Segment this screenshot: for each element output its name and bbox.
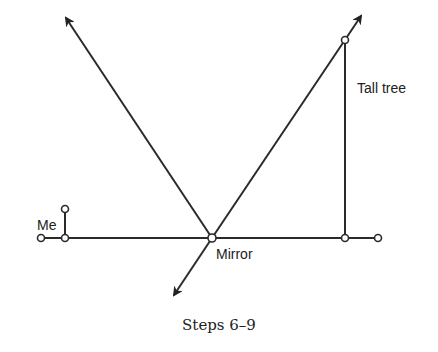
me-base-point	[62, 235, 69, 242]
me-label: Me	[37, 217, 57, 233]
tree-label: Tall tree	[357, 80, 406, 96]
right-end-point	[375, 235, 382, 242]
mirror-label: Mirror	[216, 246, 253, 262]
me-eye-point	[62, 206, 69, 213]
ray-upper-left	[66, 18, 212, 238]
tree-base-point	[342, 235, 349, 242]
ray-upper-right	[212, 16, 361, 238]
left-end-point	[38, 235, 45, 242]
caption: Steps 6–9	[182, 316, 256, 334]
tree-top-point	[342, 37, 349, 44]
mirror-point	[208, 234, 216, 242]
ray-lower-left	[174, 238, 212, 295]
diagram-canvas: Me Mirror Tall tree Steps 6–9	[0, 0, 438, 352]
